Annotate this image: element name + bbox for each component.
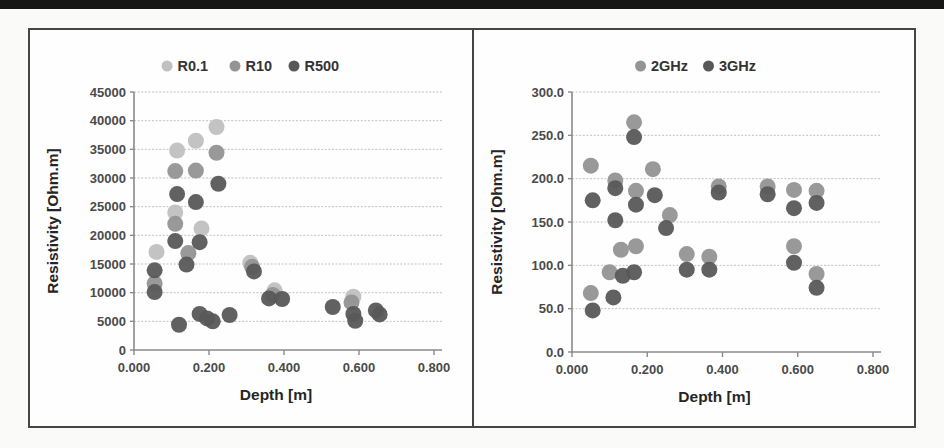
data-point-R500: [205, 313, 221, 329]
chart-resistivity-by-frequency: 0.050.0100.0150.0200.0250.0300.00.0000.2…: [474, 30, 916, 426]
data-point-R500: [192, 234, 208, 250]
data-point-R10: [167, 163, 183, 179]
data-point-3GHz: [658, 220, 674, 236]
legend-label-2GHz: 2GHz: [651, 58, 688, 74]
data-point-3GHz: [628, 197, 644, 213]
y-tick-label: 45000: [90, 85, 126, 100]
x-axis-title: Depth [m]: [678, 388, 750, 405]
y-tick-label: 200.0: [531, 171, 564, 186]
charts-panel: 0500010000150002000025000300003500040000…: [28, 28, 916, 428]
y-tick-label: 100.0: [531, 258, 564, 273]
data-point-2GHz: [809, 266, 825, 282]
legend-swatch-R10: [230, 61, 241, 72]
data-point-2GHz: [628, 183, 644, 199]
data-point-3GHz: [607, 212, 623, 228]
legend-swatch-2GHz: [635, 61, 646, 72]
y-tick-label: 20000: [90, 228, 126, 243]
data-point-R500: [210, 176, 226, 192]
data-point-2GHz: [786, 238, 802, 254]
y-axis-title: Resistivity [Ohm.m]: [488, 149, 505, 295]
data-point-R10: [188, 163, 204, 179]
data-point-3GHz: [647, 187, 663, 203]
data-point-3GHz: [786, 200, 802, 216]
x-tick-label: 0.200: [631, 362, 664, 377]
x-tick-label: 0.800: [418, 360, 451, 375]
data-point-R500: [169, 186, 185, 202]
data-point-R500: [347, 313, 363, 329]
data-point-R0.1: [209, 119, 225, 135]
y-axis-title: Resistivity [Ohm.m]: [44, 148, 61, 294]
data-point-R500: [147, 284, 163, 300]
data-point-R500: [188, 194, 204, 210]
data-point-R10: [209, 145, 225, 161]
x-axis-title: Depth [m]: [240, 386, 312, 403]
scatter-chart-svg-left: 0500010000150002000025000300003500040000…: [30, 30, 472, 426]
data-point-R0.1: [169, 142, 185, 158]
y-tick-label: 10000: [90, 285, 126, 300]
data-point-3GHz: [701, 262, 717, 278]
data-point-3GHz: [626, 129, 642, 145]
data-point-3GHz: [679, 262, 695, 278]
legend-label-R10: R10: [246, 58, 273, 74]
scanned-figure-page: 0500010000150002000025000300003500040000…: [0, 0, 944, 448]
data-point-2GHz: [786, 182, 802, 198]
data-point-2GHz: [613, 242, 629, 258]
data-point-2GHz: [583, 285, 599, 301]
legend-swatch-R500: [288, 61, 299, 72]
data-point-3GHz: [585, 302, 601, 318]
y-tick-label: 15000: [90, 257, 126, 272]
data-point-R10: [167, 216, 183, 232]
data-point-R0.1: [194, 220, 210, 236]
data-point-2GHz: [628, 238, 644, 254]
legend-label-3GHz: 3GHz: [719, 58, 756, 74]
chart-resistivity-by-resolution: 0500010000150002000025000300003500040000…: [30, 30, 474, 426]
scan-artifact-top-bar: [0, 0, 944, 9]
scatter-chart-svg-right: 0.050.0100.0150.0200.0250.0300.00.0000.2…: [474, 30, 916, 426]
x-tick-label: 0.400: [706, 362, 739, 377]
y-tick-label: 250.0: [531, 128, 564, 143]
y-tick-label: 5000: [97, 314, 126, 329]
y-tick-label: 0.0: [546, 345, 564, 360]
data-point-2GHz: [645, 161, 661, 177]
y-tick-label: 300.0: [531, 85, 564, 100]
data-point-3GHz: [626, 264, 642, 280]
legend-label-R500: R500: [304, 58, 339, 74]
data-point-3GHz: [809, 195, 825, 211]
data-point-R500: [325, 299, 341, 315]
data-point-R500: [167, 233, 183, 249]
data-point-2GHz: [583, 158, 599, 174]
data-point-R0.1: [188, 133, 204, 149]
data-point-R500: [274, 291, 290, 307]
x-tick-label: 0.800: [857, 362, 890, 377]
data-point-2GHz: [626, 114, 642, 130]
data-point-3GHz: [605, 289, 621, 305]
data-point-R500: [171, 317, 187, 333]
legend-swatch-3GHz: [703, 61, 714, 72]
y-tick-label: 35000: [90, 142, 126, 157]
data-point-3GHz: [809, 280, 825, 296]
x-tick-label: 0.600: [781, 362, 814, 377]
data-point-3GHz: [607, 180, 623, 196]
data-point-R0.1: [149, 244, 165, 260]
x-tick-label: 0.000: [556, 362, 589, 377]
data-point-3GHz: [711, 185, 727, 201]
y-tick-label: 0: [119, 343, 126, 358]
y-tick-label: 30000: [90, 171, 126, 186]
x-tick-label: 0.200: [193, 360, 226, 375]
data-point-R500: [222, 307, 238, 323]
x-tick-label: 0.400: [268, 360, 301, 375]
y-tick-label: 25000: [90, 199, 126, 214]
legend-swatch-R0.1: [162, 61, 173, 72]
y-tick-label: 40000: [90, 113, 126, 128]
data-point-3GHz: [760, 186, 776, 202]
legend-label-R0.1: R0.1: [178, 58, 209, 74]
data-point-R500: [372, 306, 388, 322]
y-tick-label: 150.0: [531, 215, 564, 230]
data-point-3GHz: [786, 255, 802, 271]
data-point-2GHz: [679, 246, 695, 262]
data-point-R500: [179, 257, 195, 273]
x-tick-label: 0.600: [343, 360, 376, 375]
data-point-R500: [246, 263, 262, 279]
y-tick-label: 50.0: [539, 301, 564, 316]
data-point-R500: [147, 262, 163, 278]
